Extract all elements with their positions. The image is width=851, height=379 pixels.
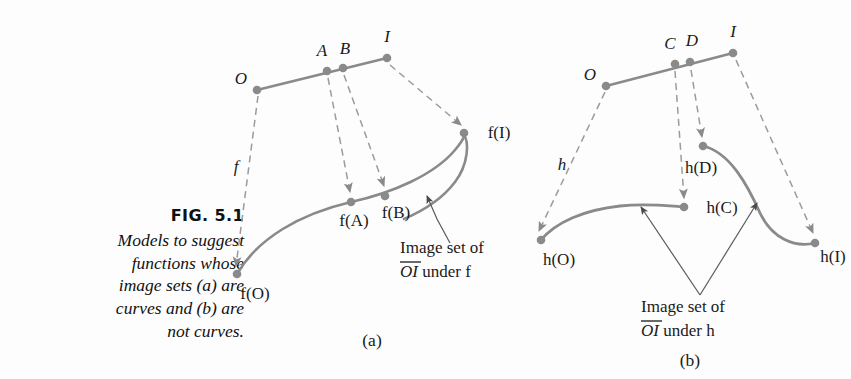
point-i-b: [729, 49, 738, 58]
label-function-f: f: [234, 157, 241, 176]
panel-b: O C D I h h(O) h(C) h(D) h(I) Image set …: [537, 22, 846, 370]
annotation-segment-b: OI: [641, 321, 660, 340]
map-arrow-d-b: [691, 70, 702, 137]
image-curve-b-right: [703, 146, 815, 244]
point-fb-a: [381, 192, 390, 201]
image-curve-b-left: [541, 205, 684, 240]
point-fa-a: [347, 198, 356, 207]
label-point-hc-b: h(C): [706, 198, 737, 217]
panel-sub-label-b: (b): [680, 350, 701, 370]
annotation-line1-b: Image set of: [641, 297, 725, 316]
map-arrow-o-a: [236, 96, 258, 266]
label-point-o-b: O: [584, 65, 596, 84]
label-point-d-b: D: [685, 31, 699, 50]
svg-text:OI under h: OI under h: [641, 321, 715, 340]
map-arrow-i-a: [390, 65, 461, 125]
point-hd-b: [699, 142, 708, 151]
annotation-leader-a: [427, 196, 450, 243]
label-function-h: h: [558, 155, 567, 174]
figure-illustration: O A B I f f(O) f(A) f(B) f(I) Image set …: [0, 0, 851, 379]
annotation-line2-b: OI under h: [641, 321, 715, 340]
point-fi-a: [460, 129, 469, 138]
label-point-fb-a: f(B): [382, 203, 410, 222]
point-i-a: [383, 54, 392, 63]
annotation-rest-b: under h: [659, 321, 715, 340]
annotation-leader-b-left: [641, 207, 700, 295]
point-o-a: [253, 86, 262, 95]
svg-text:OI under f: OI under f: [400, 262, 471, 281]
label-point-i-b: I: [729, 22, 737, 41]
point-d-b: [686, 58, 695, 67]
annotation-segment-a: OI: [400, 262, 419, 281]
map-arrow-b-a: [344, 75, 384, 186]
map-arrow-i-b: [736, 60, 813, 233]
label-point-fi-a: f(I): [488, 123, 511, 142]
annotation-line2-a: OI under f: [400, 262, 471, 281]
segment-oi-a: [257, 58, 387, 90]
panel-sub-label-a: (a): [362, 330, 382, 350]
segment-oi-b: [606, 53, 733, 86]
label-point-hi-b: h(I): [820, 247, 845, 266]
point-hi-b: [811, 239, 820, 248]
label-point-b-a: B: [340, 39, 351, 58]
point-fo-a: [233, 270, 242, 279]
panel-a: O A B I f f(O) f(A) f(B) f(I) Image set …: [233, 27, 511, 350]
point-o-b: [602, 82, 611, 91]
point-a-a: [323, 67, 332, 76]
label-point-hd-b: h(D): [685, 158, 717, 177]
label-point-ho-b: h(O): [543, 250, 575, 269]
point-ho-b: [537, 236, 546, 245]
label-point-fo-a: f(O): [240, 284, 269, 303]
point-hc-b: [680, 203, 689, 212]
annotation-rest-a: under f: [418, 262, 471, 281]
figure-page: FIG. 5.1 Models to suggest functions who…: [0, 0, 851, 379]
annotation-line1-a: Image set of: [400, 238, 484, 257]
label-point-a-a: A: [316, 41, 328, 60]
label-point-fa-a: f(A): [339, 211, 368, 230]
map-arrow-a-a: [328, 78, 350, 192]
point-c-b: [671, 60, 680, 69]
map-arrow-c-b: [675, 71, 684, 198]
point-b-a: [339, 64, 348, 73]
label-point-c-b: C: [664, 34, 676, 53]
label-point-i-a: I: [383, 27, 391, 46]
label-point-o-a: O: [235, 69, 247, 88]
